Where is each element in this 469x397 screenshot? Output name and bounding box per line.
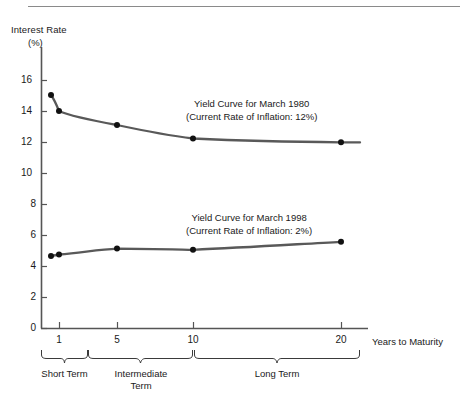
plot-canvas <box>0 0 469 397</box>
curve-1980 <box>51 95 360 142</box>
bracket-long-term <box>195 350 360 363</box>
bracket-short-term <box>42 350 88 363</box>
x-tick-marks <box>60 322 342 328</box>
maturity-brackets <box>42 350 360 363</box>
bracket-intermediate-term <box>89 350 193 363</box>
yield-curve-figure: Interest Rate (%) Years to Maturity 0 2 … <box>0 0 469 397</box>
curve-1998 <box>51 242 341 256</box>
markers-1980 <box>48 92 344 145</box>
